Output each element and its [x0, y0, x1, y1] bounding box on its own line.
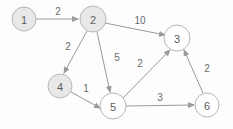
edge-weight-label-2-5: 5 — [114, 52, 120, 63]
graph-node-2[interactable]: 2 — [80, 6, 106, 32]
edge-weight-label-4-5: 1 — [83, 83, 89, 94]
node-label-3: 3 — [174, 33, 180, 45]
node-label-2: 2 — [90, 14, 96, 26]
edge-weight-label-5-3: 2 — [137, 58, 143, 69]
graph-node-4[interactable]: 4 — [48, 74, 72, 98]
node-label-5: 5 — [110, 101, 116, 113]
node-label-1: 1 — [21, 14, 27, 26]
graph-svg: 123456 210251232 — [0, 0, 233, 129]
node-label-6: 6 — [204, 100, 210, 112]
graph-node-6[interactable]: 6 — [195, 93, 219, 117]
graph-edge-5-to-6 — [126, 105, 194, 106]
nodes-layer: 123456 — [12, 6, 219, 119]
graph-node-5[interactable]: 5 — [100, 93, 126, 119]
graph-edge-2-to-5 — [97, 32, 110, 92]
edge-weight-label-6-3: 2 — [204, 63, 210, 74]
node-label-4: 4 — [57, 81, 63, 93]
graph-diagram-canvas: 123456 210251232 — [0, 0, 233, 129]
edge-weight-label-1-2: 2 — [55, 6, 61, 17]
edge-weight-label-5-6: 3 — [157, 92, 163, 103]
graph-edge-2-to-4 — [64, 31, 87, 73]
edge-weight-label-2-3: 10 — [134, 15, 146, 26]
graph-edge-5-to-3 — [123, 50, 170, 98]
graph-edge-6-to-3 — [184, 50, 203, 93]
edge-weight-label-2-4: 2 — [65, 41, 71, 52]
graph-node-1[interactable]: 1 — [12, 7, 36, 31]
graph-node-3[interactable]: 3 — [164, 25, 190, 51]
graph-edge-4-to-5 — [71, 92, 100, 108]
